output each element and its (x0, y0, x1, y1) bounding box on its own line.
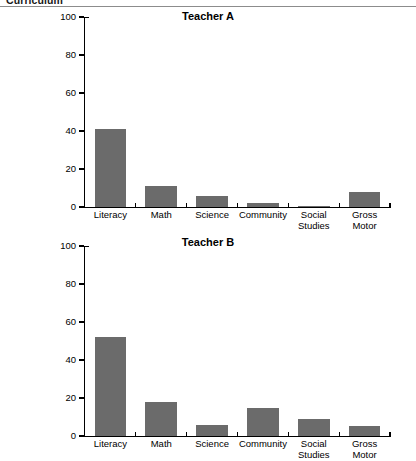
y-axis-tick-label: 40 (46, 355, 76, 365)
chart-teacher-a: Teacher A 020406080100LiteracyMathScienc… (0, 10, 416, 232)
y-axis-tick (79, 206, 84, 207)
y-axis-tick (79, 435, 84, 436)
y-axis-tick (79, 283, 84, 284)
y-axis-tick-label: 100 (46, 241, 76, 251)
y-axis-tick-label: 0 (46, 202, 76, 212)
plot-area: 020406080100LiteracyMathScienceCommunity… (85, 17, 390, 207)
y-axis-tick-label: 40 (46, 126, 76, 136)
bar (298, 206, 330, 207)
x-axis-tick (339, 432, 340, 437)
y-axis-tick-label: 80 (46, 50, 76, 60)
x-axis-tick (288, 203, 289, 208)
y-axis-tick (79, 321, 84, 322)
y-axis-tick (79, 168, 84, 169)
y-axis (84, 17, 85, 207)
x-axis-tick (186, 432, 187, 437)
header-divider (0, 6, 416, 7)
y-axis-tick (79, 130, 84, 131)
bar (247, 408, 279, 437)
x-axis-tick (288, 432, 289, 437)
y-axis-tick (79, 16, 84, 17)
bar (196, 425, 228, 436)
x-axis-tick (339, 203, 340, 208)
bar (145, 186, 177, 207)
x-axis-tick (237, 203, 238, 208)
y-axis-tick (79, 92, 84, 93)
y-axis-tick-label: 20 (46, 164, 76, 174)
y-axis-tick (79, 397, 84, 398)
bar (298, 419, 330, 436)
page-title: Curriculum (6, 0, 63, 5)
y-axis-tick (79, 359, 84, 360)
x-axis-tick (135, 432, 136, 437)
y-axis-tick (79, 245, 84, 246)
bar (247, 203, 279, 207)
bar (349, 426, 381, 436)
x-axis-category-label: Gross Motor (333, 210, 397, 231)
x-axis-tick (186, 203, 187, 208)
y-axis-tick-label: 0 (46, 431, 76, 441)
x-axis-tick (389, 432, 390, 437)
y-axis-tick-label: 100 (46, 12, 76, 22)
y-axis-tick-label: 80 (46, 279, 76, 289)
x-axis-tick (389, 203, 390, 208)
chart-teacher-b: Teacher B 020406080100LiteracyMathScienc… (0, 236, 416, 461)
bar (95, 129, 127, 207)
bar (145, 402, 177, 436)
y-axis-tick (79, 54, 84, 55)
y-axis (84, 246, 85, 436)
y-axis-cap (84, 17, 89, 18)
y-axis-tick-label: 60 (46, 317, 76, 327)
y-axis-tick-label: 60 (46, 88, 76, 98)
bar (349, 192, 381, 207)
y-axis-cap (84, 246, 89, 247)
x-axis-tick (237, 432, 238, 437)
x-axis-category-label: Gross Motor (333, 439, 397, 460)
bar (95, 337, 127, 436)
plot-area: 020406080100LiteracyMathScienceCommunity… (85, 246, 390, 436)
y-axis-tick-label: 20 (46, 393, 76, 403)
bar (196, 196, 228, 207)
x-axis-tick (135, 203, 136, 208)
page-header: Curriculum (0, 0, 416, 10)
